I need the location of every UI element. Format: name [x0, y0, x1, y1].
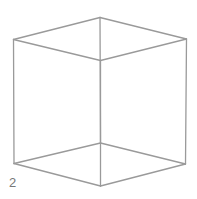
edge-top-back-right — [100, 18, 187, 40]
figure-label: 2 — [9, 175, 16, 190]
edge-vertical-right — [186, 39, 187, 164]
edge-vertical-left — [14, 40, 15, 164]
edge-bottom-back-right — [101, 143, 186, 164]
edge-top-right-front — [101, 39, 187, 61]
edge-bottom-right-front — [101, 164, 186, 186]
edge-top-front-left — [14, 40, 101, 61]
edge-bottom-front-left — [14, 164, 101, 187]
edge-bottom-left-back — [14, 143, 101, 164]
cube-diagram — [0, 0, 197, 199]
edge-top-left-back — [14, 18, 101, 40]
